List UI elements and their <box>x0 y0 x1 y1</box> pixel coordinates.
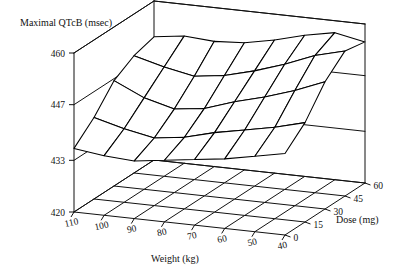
dose-tick-15 <box>305 222 311 224</box>
z-axis-title: Maximal QTcB (msec) <box>20 17 112 29</box>
z-tick-label-420: 420 <box>51 208 66 218</box>
surface-plot-figure: 110100908070605040015304560420433447460M… <box>0 0 402 272</box>
back-wall-gridline-right-460 <box>154 1 365 24</box>
weight-tick-label-80: 80 <box>156 226 168 238</box>
weight-tick-label-50: 50 <box>247 236 259 248</box>
dose-tick-45 <box>345 196 351 198</box>
dose-tick-label-60: 60 <box>374 181 384 191</box>
z-tick-label-460: 460 <box>51 49 66 59</box>
x-axis-title: Weight (kg) <box>151 253 199 265</box>
dose-tick-label-15: 15 <box>314 220 324 230</box>
dose-tick-label-45: 45 <box>354 194 364 204</box>
dose-tick-label-0: 0 <box>294 233 299 243</box>
weight-tick-label-90: 90 <box>126 223 138 235</box>
floor-grid-dose-line-45 <box>134 173 345 196</box>
dose-tick-0 <box>285 235 291 237</box>
floor-grid-dose-line-60 <box>154 160 365 183</box>
surface-mesh <box>74 33 365 161</box>
y-axis-title: Dose (mg) <box>336 214 379 226</box>
floor-grid-dose-line-30 <box>114 186 325 209</box>
floor-grid-dose-line-15 <box>94 199 305 222</box>
weight-tick-label-40: 40 <box>277 240 289 252</box>
z-tick-label-433: 433 <box>51 156 66 166</box>
z-tick-label-447: 447 <box>51 100 66 110</box>
weight-tick-label-110: 110 <box>64 216 80 229</box>
dose-tick-30 <box>325 209 331 211</box>
weight-tick-label-100: 100 <box>94 219 110 232</box>
weight-tick-label-60: 60 <box>216 233 228 245</box>
dose-tick-60 <box>365 183 371 185</box>
plot-canvas: 110100908070605040015304560420433447460M… <box>0 0 402 272</box>
weight-tick-label-70: 70 <box>186 230 198 242</box>
